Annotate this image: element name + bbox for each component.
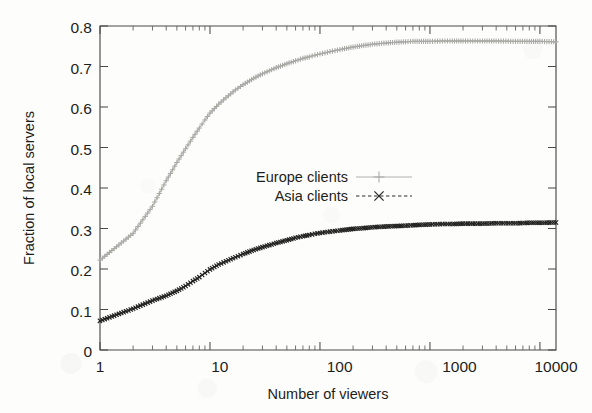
y-axis-tick-labels: 0.8 0.7 0.6 0.5 0.4 0.3 0.2 0.1 0 [70,19,92,360]
y-tick-label-0.6: 0.6 [70,100,92,117]
legend-label-asia-clients: Asia clients [275,188,348,204]
series-asia-markers [98,220,558,323]
series-europe-markers [97,38,558,262]
y-tick-label-0.4: 0.4 [70,181,92,198]
y-tick-label-0.8: 0.8 [70,19,92,36]
legend-plus-icon [374,172,385,183]
x-axis-tick-labels: 1 10 100 1000 10000 [96,358,578,375]
chart-figure: 0.8 0.7 0.6 0.5 0.4 0.3 0.2 0.1 0 1 10 1… [0,0,592,413]
plot-canvas: 0.8 0.7 0.6 0.5 0.4 0.3 0.2 0.1 0 1 10 1… [0,0,592,413]
legend: Europe clients Asia clients [256,169,412,204]
y-tick-label-0.3: 0.3 [70,222,92,239]
x-tick-label-10000: 10000 [534,358,577,375]
y-axis-title: Fraction of local servers [21,111,37,265]
legend-swatch-europe-clients [356,172,412,183]
x-tick-label-1: 1 [96,358,105,375]
y-tick-label-0.5: 0.5 [70,141,92,158]
series-asia-clients [98,220,558,323]
y-tick-label-0.7: 0.7 [70,60,92,77]
x-tick-label-10: 10 [211,358,229,375]
y-tick-label-0.2: 0.2 [70,262,92,279]
x-tick-label-100: 100 [327,358,353,375]
series-europe-clients [97,38,558,262]
legend-label-europe-clients: Europe clients [256,169,348,185]
legend-swatch-asia-clients [356,191,412,200]
y-tick-label-0: 0 [83,343,92,360]
x-axis-title: Number of viewers [268,386,389,402]
y-tick-label-0.1: 0.1 [70,303,92,320]
x-tick-label-1000: 1000 [442,358,477,375]
